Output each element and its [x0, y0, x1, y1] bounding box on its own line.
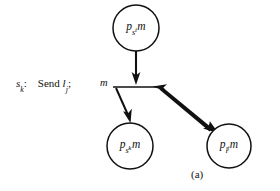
node-bottom-left-subscript-inner: k	[128, 144, 131, 152]
node-top-suffix: m	[137, 20, 145, 32]
node-bottom-left-suffix: m	[132, 138, 140, 150]
statement-text: sk:Send lj;	[16, 78, 71, 92]
figure-container: sk:Send lj; m psim pskm pljm (a)	[0, 0, 280, 191]
edge-line-junction-to-bottom-left	[116, 88, 128, 115]
statement-keyword: Send	[38, 77, 60, 89]
statement-operand-subscript: j	[66, 85, 68, 94]
node-bottom-right-suffix: m	[230, 138, 238, 150]
statement-state-subscript: k	[20, 85, 24, 94]
node-bottom-right-symbol: p	[220, 138, 226, 150]
node-top-subscript-inner: i	[135, 26, 137, 34]
figure-caption: (a)	[191, 169, 203, 180]
node-bottom-right-subscript-inner: j	[227, 144, 229, 152]
statement-terminator: ;	[68, 77, 71, 89]
node-top-symbol: p	[126, 20, 132, 32]
message-label: m	[100, 78, 108, 89]
statement-colon: :	[24, 77, 27, 89]
arrowhead-bottom-right-to-junction	[153, 84, 168, 91]
edge-line-junction-to-bottom-right	[159, 86, 212, 132]
node-bottom-left-symbol: p	[120, 138, 126, 150]
node-label-bottom-left: pskm	[120, 139, 140, 154]
arrowhead-junction-to-bottom-left	[123, 109, 132, 123]
node-label-top: psim	[126, 21, 145, 36]
node-label-bottom-right: pljm	[220, 139, 238, 154]
